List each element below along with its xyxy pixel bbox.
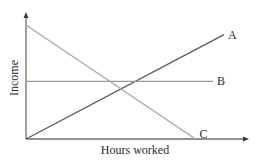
y-axis-label: Income xyxy=(7,60,21,96)
series-line-a xyxy=(26,35,224,139)
x-axis-arrow-icon xyxy=(243,137,249,142)
x-axis-label: Hours worked xyxy=(101,143,169,157)
series-lines xyxy=(26,25,224,139)
y-axis-arrow-icon xyxy=(24,12,29,18)
income-vs-hours-chart: ABC Hours worked Income xyxy=(0,0,258,160)
series-label-a: A xyxy=(228,28,237,42)
series-label-c: C xyxy=(199,127,207,141)
series-label-b: B xyxy=(217,74,225,88)
